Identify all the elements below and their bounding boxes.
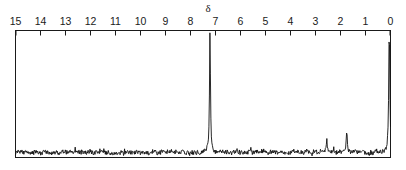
nmr-trace-path [16,33,391,156]
axis-tick-label-0: 0 [388,15,394,27]
axis-symbol-group: δ [205,2,210,14]
axis-tick-label-1: 1 [363,15,369,27]
axis-tick-label-10: 10 [135,15,147,27]
axis-tick-label-12: 12 [85,15,97,27]
axis-tick-label-13: 13 [60,15,72,27]
axis-tick-marks [16,31,390,36]
axis-tick-label-3: 3 [313,15,319,27]
axis-tick-label-6: 6 [238,15,244,27]
axis-tick-label-4: 4 [288,15,294,27]
axis-tick-label-9: 9 [163,15,169,27]
axis-tick-label-11: 11 [110,15,121,27]
axis-tick-label-14: 14 [35,15,47,27]
axis-tick-label-8: 8 [188,15,194,27]
axis-tick-label-2: 2 [338,15,344,27]
axis-tick-label-15: 15 [10,15,22,27]
plot-frame [16,31,391,158]
spectrum-figure: 1514131211109876543210 δ [0,0,406,170]
axis-tick-label-group: 1514131211109876543210 [10,15,394,27]
axis-tick-label-7: 7 [213,15,219,27]
delta-ppm-symbol: δ [205,2,210,14]
spectrum-canvas: 1514131211109876543210 δ [0,0,406,170]
axis-tick-label-5: 5 [263,15,269,27]
